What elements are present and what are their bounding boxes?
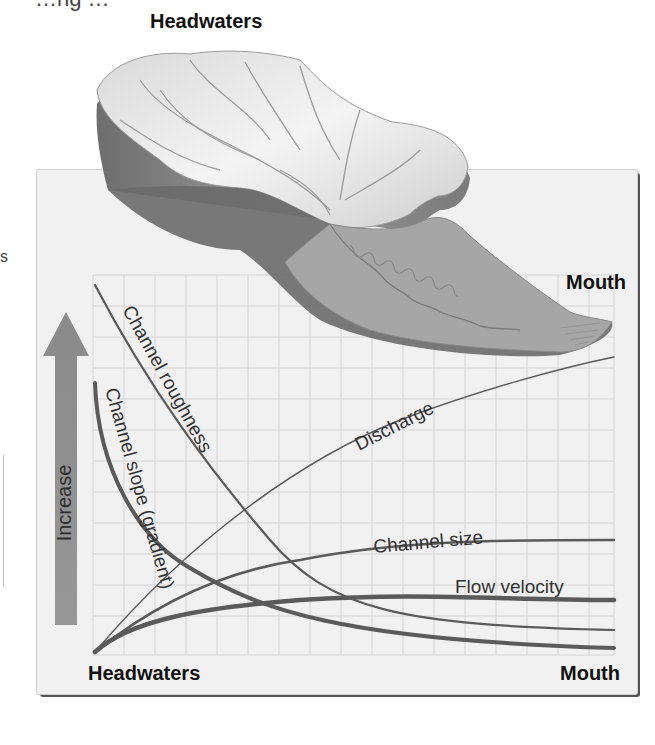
curve-channel-slope: [95, 383, 614, 648]
landscape-headwaters-label: Headwaters: [150, 10, 262, 32]
landscape-mouth-label: Mouth: [566, 271, 626, 293]
label-discharge: Discharge: [351, 397, 437, 455]
diagram-frame: …ng … s: [0, 0, 655, 745]
stream-profile-diagram: Headwaters Mouth Increase Channel roughn…: [0, 0, 655, 745]
x-axis-end-label: Mouth: [560, 662, 620, 684]
x-axis-start-label: Headwaters: [88, 662, 200, 684]
label-channel-size: Channel size: [373, 526, 484, 556]
increase-arrow-icon: Increase: [43, 312, 89, 625]
label-flow-velocity: Flow velocity: [455, 576, 564, 597]
y-axis-label: Increase: [53, 465, 75, 542]
label-channel-slope: Channel slope (gradient): [101, 385, 179, 591]
watershed-illustration: Headwaters Mouth: [97, 10, 626, 356]
